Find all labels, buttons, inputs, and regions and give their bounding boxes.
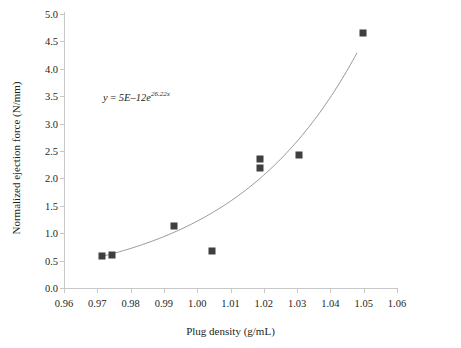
equation-coefficient: 5E–12 (119, 92, 146, 103)
trendline-equation-annotation: y = 5E–12e26.22x (103, 90, 170, 103)
data-point (257, 156, 264, 163)
data-points-layer (0, 0, 461, 348)
data-point (99, 253, 106, 260)
chart-figure: Normalized ejection force (N/mm) Plug de… (0, 0, 461, 348)
data-point (209, 248, 216, 255)
equation-equals: = (108, 92, 119, 103)
data-point (359, 29, 366, 36)
data-point (295, 152, 302, 159)
equation-exponent: 26.22x (151, 90, 170, 98)
data-point (170, 223, 177, 230)
data-point (257, 164, 264, 171)
data-point (109, 252, 116, 259)
